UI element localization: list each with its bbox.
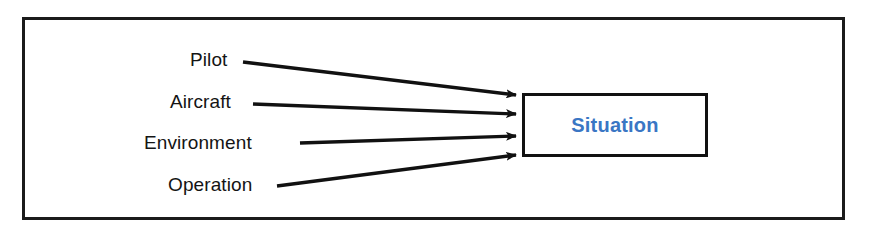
source-label-aircraft: Aircraft <box>170 92 231 111</box>
situation-label: Situation <box>571 114 658 137</box>
arrow-pilot-to-situation <box>243 62 516 95</box>
situation-box: Situation <box>522 93 708 157</box>
connector-arrows-layer <box>0 0 872 236</box>
arrow-environment-to-situation <box>300 136 516 143</box>
source-label-environment: Environment <box>144 133 252 152</box>
source-label-pilot: Pilot <box>190 50 227 69</box>
arrow-operation-to-situation <box>277 155 516 186</box>
source-label-operation: Operation <box>168 175 252 194</box>
arrow-aircraft-to-situation <box>253 104 516 114</box>
figure-root: Pilot Aircraft Environment Operation Sit… <box>0 0 872 236</box>
